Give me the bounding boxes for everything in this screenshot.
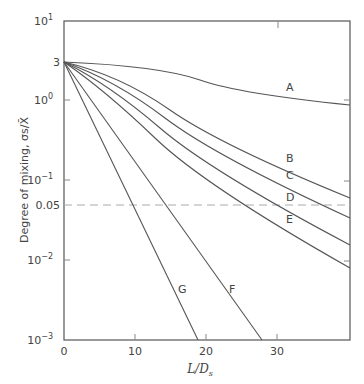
curves: [64, 62, 350, 340]
svg-text:30: 30: [270, 345, 284, 358]
svg-text:20: 20: [199, 345, 213, 358]
svg-text:3: 3: [53, 56, 60, 69]
curve-labels: A B C D E F G: [178, 81, 294, 296]
svg-text:101: 101: [34, 13, 53, 28]
label-A: A: [286, 81, 294, 94]
curve-G: [64, 62, 198, 340]
curve-C: [64, 62, 350, 218]
curve-F: [64, 62, 262, 340]
label-E: E: [286, 213, 293, 226]
svg-text:10: 10: [128, 345, 142, 358]
label-F: F: [229, 283, 235, 296]
svg-text:100: 100: [34, 92, 53, 107]
curve-A: [64, 62, 350, 105]
svg-text:10−3: 10−3: [27, 332, 53, 347]
svg-text:10−2: 10−2: [27, 252, 53, 267]
label-D: D: [286, 191, 294, 204]
curve-D: [64, 62, 350, 245]
x-tick-labels: 0 10 20 30: [61, 345, 285, 358]
label-G: G: [178, 283, 187, 296]
y-tick-labels: 101 3 100 10−1 0.05 10−2 10−3: [27, 13, 60, 347]
svg-text:0: 0: [61, 345, 68, 358]
curve-E: [64, 62, 350, 268]
y-axis-title: Degree of mixing, σs/X̄: [18, 117, 31, 243]
x-axis-title: L/Ds: [186, 362, 213, 378]
label-C: C: [286, 169, 294, 182]
svg-text:0.05: 0.05: [36, 199, 61, 212]
svg-text:10−1: 10−1: [27, 172, 53, 187]
mixing-chart: A B C D E F G 101 3 100 10−1 0.05 10−2 1…: [0, 0, 364, 384]
label-B: B: [286, 152, 294, 165]
